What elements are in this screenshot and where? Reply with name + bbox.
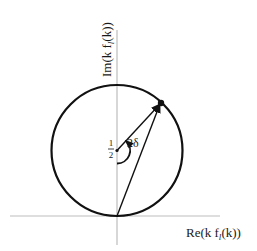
center-label: 1 2 [108, 138, 114, 160]
imaginary-axis-label: Im(k fl(k)) [99, 22, 116, 77]
amplitude-vector [117, 104, 160, 216]
circle-center [115, 149, 118, 152]
svg-text:1: 1 [109, 138, 114, 148]
argand-diagram: 1 2 2δ Re(k fl(k)) Im(k fl(k)) [0, 0, 257, 251]
real-axis-label: Re(k fl(k)) [186, 225, 241, 242]
svg-text:2: 2 [109, 150, 114, 160]
angle-label: 2δ [127, 136, 139, 150]
amplitude-tip [158, 100, 164, 106]
